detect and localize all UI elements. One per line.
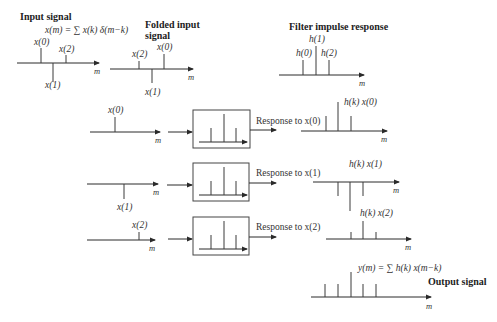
label-x0: x(0) — [33, 37, 49, 48]
row2-response-label: Response to x(2) — [256, 222, 320, 233]
row2-product-label: h(k) x(2) — [360, 208, 393, 219]
row0-response-label: Response to x(0) — [256, 116, 320, 127]
filter-impulse-plot: Filter impulse response h(0) h(1) h(2) m — [279, 21, 389, 88]
label-h2: h(2) — [321, 48, 337, 59]
folded-label-x0: x(0) — [156, 42, 172, 53]
folded-label-x2: x(2) — [131, 49, 147, 60]
input-equation: x(m) = ∑ x(k) δ(m−k) — [44, 25, 128, 36]
axis-m: m — [393, 185, 399, 195]
row0-input-label: x(0) — [107, 105, 123, 116]
input-signal-plot: Input signal x(m) = ∑ x(k) δ(m−k) x(0) x… — [17, 11, 128, 91]
row1-response-label: Response to x(1) — [256, 168, 320, 179]
axis-m: m — [155, 135, 161, 145]
input-signal-title: Input signal — [20, 11, 72, 22]
label-h1: h(1) — [309, 34, 325, 45]
row1-product-label: h(k) x(1) — [349, 159, 382, 170]
axis-m: m — [94, 66, 100, 76]
folded-label-x1: x(1) — [144, 87, 160, 98]
row1-input-label: x(1) — [116, 202, 132, 213]
axis-m: m — [149, 243, 155, 253]
label-h0: h(0) — [296, 48, 312, 59]
label-x2: x(2) — [58, 44, 74, 55]
row0-product-label: h(k) x(0) — [344, 97, 377, 108]
folded-title-line2: signal — [145, 30, 170, 41]
output-equation: y(m) = ∑ h(k) x(m−k) — [357, 263, 441, 274]
output-signal-title: Output signal — [428, 276, 487, 287]
folded-title-line1: Folded input — [145, 19, 200, 30]
filter-title: Filter impulse response — [289, 21, 389, 32]
axis-m: m — [359, 78, 365, 88]
label-x1: x(1) — [44, 80, 60, 91]
row2-input-label: x(2) — [131, 220, 147, 231]
axis-m: m — [426, 301, 432, 311]
row-x0: x(0) m Response to x(0) h(k) x(0) m — [90, 97, 387, 148]
axis-m: m — [188, 72, 194, 82]
axis-m: m — [405, 242, 411, 252]
output-signal-plot: y(m) = ∑ h(k) x(m−k) Output signal m — [311, 263, 487, 311]
row-x2: x(2) m Response to x(2) h(k) x(2) m — [87, 208, 411, 255]
axis-m: m — [153, 187, 159, 197]
row-x1: x(1) m Response to x(1) h(k) x(1) m — [87, 159, 399, 213]
convolution-diagram: Input signal x(m) = ∑ x(k) δ(m−k) x(0) x… — [0, 0, 497, 322]
axis-m: m — [381, 134, 387, 144]
